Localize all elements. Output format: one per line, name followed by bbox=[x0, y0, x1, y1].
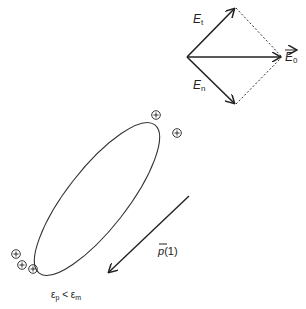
label-e-n: En bbox=[193, 78, 205, 93]
plus-charge-icon bbox=[18, 261, 27, 270]
particle-ellipse bbox=[15, 106, 178, 291]
plus-charge-icon bbox=[12, 250, 21, 259]
polarization-arrow bbox=[109, 196, 189, 272]
dotted-line-top bbox=[236, 8, 281, 56]
cond-relation: < bbox=[62, 289, 68, 300]
label-e-n-symbol: E bbox=[193, 78, 201, 92]
label-p-argument: (1) bbox=[164, 245, 177, 257]
cond-left-sub: p bbox=[55, 294, 59, 301]
dotted-line-bottom bbox=[236, 58, 281, 104]
label-e-t-subscript: t bbox=[201, 18, 203, 27]
label-condition: εp < εm bbox=[51, 289, 81, 301]
label-e-t-symbol: E bbox=[193, 12, 201, 26]
label-e-n-subscript: n bbox=[201, 84, 205, 93]
cond-right-sub: m bbox=[75, 294, 81, 301]
label-polarization: p(1) bbox=[158, 245, 178, 257]
label-e-0: E0 bbox=[285, 50, 297, 65]
plus-charge-icon bbox=[173, 129, 182, 138]
charge-icons bbox=[12, 111, 182, 274]
label-e-t: Et bbox=[193, 12, 203, 27]
label-e-0-symbol: E bbox=[285, 50, 293, 64]
diagram-canvas bbox=[0, 0, 306, 309]
label-e-0-subscript: 0 bbox=[293, 56, 297, 65]
plus-charge-icon bbox=[152, 111, 161, 120]
